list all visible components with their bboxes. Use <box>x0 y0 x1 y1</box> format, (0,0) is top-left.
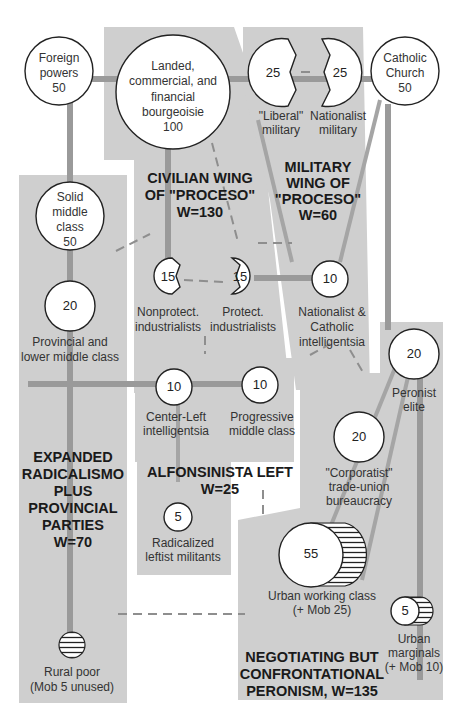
svg-text:financial: financial <box>151 90 195 104</box>
svg-text:powers: powers <box>40 66 79 80</box>
svg-text:military: military <box>319 123 357 137</box>
svg-text:"Liberal": "Liberal" <box>259 109 304 123</box>
svg-text:Landed,: Landed, <box>151 59 194 73</box>
svg-text:PLUS: PLUS <box>54 483 93 499</box>
svg-text:Radicalized: Radicalized <box>152 536 214 550</box>
coalition-diagram: Foreign powers 50 Landed, commercial, an… <box>0 0 464 718</box>
svg-text:NEGOTIATING BUT: NEGOTIATING BUT <box>245 649 379 665</box>
svg-text:EXPANDED: EXPANDED <box>33 449 113 465</box>
svg-text:PERONISM, W=135: PERONISM, W=135 <box>246 683 378 699</box>
svg-text:20: 20 <box>407 346 421 361</box>
svg-text:bureaucracy: bureaucracy <box>326 494 392 508</box>
svg-text:elite: elite <box>403 400 425 414</box>
svg-text:Solid: Solid <box>57 190 84 204</box>
svg-text:Catholic: Catholic <box>383 51 426 65</box>
svg-text:50: 50 <box>63 235 77 249</box>
svg-text:15: 15 <box>161 269 175 284</box>
svg-text:(Mob 5 unused): (Mob 5 unused) <box>30 680 114 694</box>
node-solid-middle-class: Solid middle class 50 <box>36 182 104 250</box>
svg-text:Catholic: Catholic <box>310 320 353 334</box>
svg-text:Nonprotect.: Nonprotect. <box>137 305 199 319</box>
svg-text:MILITARY: MILITARY <box>285 159 352 175</box>
svg-text:W=130: W=130 <box>177 204 223 220</box>
svg-text:Center-Left: Center-Left <box>146 410 207 424</box>
svg-text:55: 55 <box>304 546 318 561</box>
svg-text:Protect.: Protect. <box>222 305 263 319</box>
svg-text:(+ Mob 10): (+ Mob 10) <box>385 660 443 674</box>
svg-text:25: 25 <box>266 65 280 80</box>
svg-text:Nationalist: Nationalist <box>310 109 367 123</box>
svg-text:50: 50 <box>398 81 412 95</box>
svg-text:CIVILIAN WING: CIVILIAN WING <box>147 170 253 186</box>
svg-text:100: 100 <box>163 120 183 134</box>
svg-text:Provincial and: Provincial and <box>32 335 107 349</box>
svg-text:ALFONSINISTA LEFT: ALFONSINISTA LEFT <box>147 464 293 480</box>
svg-text:middle class: middle class <box>229 424 295 438</box>
svg-text:lower middle class: lower middle class <box>21 350 119 364</box>
node-bourgeoisie: Landed, commercial, and financial bourge… <box>116 35 230 149</box>
svg-text:bourgeoisie: bourgeoisie <box>142 105 204 119</box>
svg-text:Peronist: Peronist <box>392 386 437 400</box>
svg-text:Rural poor: Rural poor <box>44 665 100 679</box>
svg-text:middle: middle <box>52 205 88 219</box>
svg-text:military: military <box>262 123 300 137</box>
svg-text:PROVINCIAL: PROVINCIAL <box>28 500 118 516</box>
node-urban-working-class: 55 Urban working class (+ Mob 25) <box>268 523 376 617</box>
svg-text:WING OF: WING OF <box>286 175 350 191</box>
svg-text:W=25: W=25 <box>201 481 239 497</box>
svg-text:Urban working class: Urban working class <box>268 589 376 603</box>
svg-text:industrialists: industrialists <box>135 320 201 334</box>
svg-text:(+ Mob 25): (+ Mob 25) <box>293 603 351 617</box>
svg-text:class: class <box>56 220 83 234</box>
svg-text:5: 5 <box>401 603 408 618</box>
svg-text:intelligentsia: intelligentsia <box>299 335 365 349</box>
svg-text:10: 10 <box>167 379 181 394</box>
svg-text:20: 20 <box>352 429 366 444</box>
svg-text:20: 20 <box>63 298 77 313</box>
svg-text:OF "PROCESO": OF "PROCESO" <box>145 187 255 203</box>
node-catholic-church: Catholic Church 50 <box>371 37 439 105</box>
svg-text:W=70: W=70 <box>54 534 92 550</box>
svg-text:15: 15 <box>233 269 247 284</box>
svg-text:trade-union: trade-union <box>329 480 390 494</box>
node-foreign-powers: Foreign powers 50 <box>25 37 93 105</box>
svg-text:10: 10 <box>323 271 337 286</box>
svg-text:PARTIES: PARTIES <box>42 517 104 533</box>
svg-text:"PROCESO": "PROCESO" <box>275 191 361 207</box>
svg-text:5: 5 <box>174 509 181 524</box>
svg-text:marginals: marginals <box>388 646 440 660</box>
svg-text:CONFRONTATIONAL: CONFRONTATIONAL <box>240 666 385 682</box>
svg-text:25: 25 <box>333 65 347 80</box>
title-peronism: NEGOTIATING BUT CONFRONTATIONAL PERONISM… <box>240 649 385 699</box>
svg-text:Progressive: Progressive <box>230 410 294 424</box>
svg-text:intelligentsia: intelligentsia <box>143 424 209 438</box>
svg-text:Foreign: Foreign <box>39 51 80 65</box>
svg-text:10: 10 <box>253 377 267 392</box>
svg-text:"Corporatist": "Corporatist" <box>325 466 392 480</box>
svg-text:leftist militants: leftist militants <box>145 550 220 564</box>
svg-text:RADICALISMO: RADICALISMO <box>22 466 124 482</box>
svg-text:Church: Church <box>386 66 425 80</box>
svg-text:industrialists: industrialists <box>210 320 276 334</box>
svg-text:Urban: Urban <box>398 632 431 646</box>
svg-text:W=60: W=60 <box>299 207 337 223</box>
svg-text:50: 50 <box>52 81 66 95</box>
svg-text:commercial, and: commercial, and <box>129 74 217 88</box>
svg-text:Nationalist &: Nationalist & <box>298 305 365 319</box>
